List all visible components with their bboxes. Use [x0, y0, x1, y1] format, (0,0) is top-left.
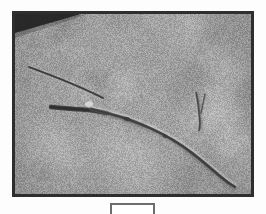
photograph-image	[15, 14, 251, 194]
specimen-photograph	[12, 11, 254, 197]
figure-root	[0, 0, 266, 214]
scale-bar-box	[110, 203, 155, 214]
